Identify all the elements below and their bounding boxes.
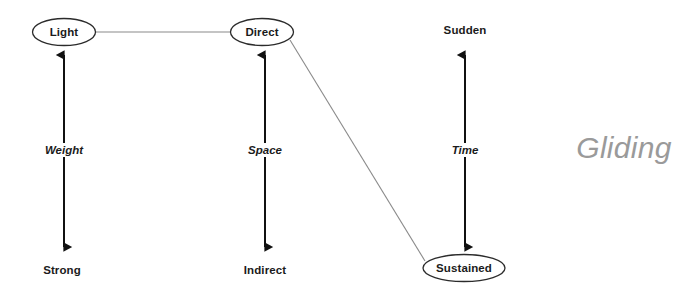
effort-graph-diagram: Light Direct Sudden Strong Indirect Sust… [0, 0, 695, 295]
axis-label-time: Time [447, 143, 484, 157]
node-label-sustained: Sustained [436, 262, 492, 274]
node-label-sudden: Sudden [444, 24, 487, 36]
node-label-strong: Strong [43, 264, 81, 276]
effort-name-label: Gliding [576, 131, 671, 165]
axis-label-space: Space [243, 143, 287, 157]
node-label-direct: Direct [245, 26, 278, 38]
node-label-light: Light [50, 26, 79, 38]
connector-direct-sustained [290, 40, 425, 261]
axis-label-weight: Weight [40, 143, 88, 157]
node-label-indirect: Indirect [244, 264, 286, 276]
